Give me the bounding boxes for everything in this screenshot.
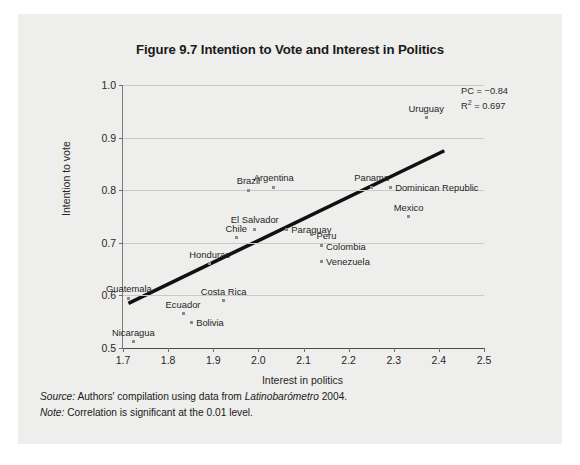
data-point: [247, 189, 250, 192]
data-point-label: Venezuela: [326, 256, 370, 267]
y-tick-mark: [119, 85, 123, 86]
y-axis-title: Intention to vote: [60, 141, 72, 216]
y-tick-label: 0.5: [101, 342, 116, 354]
figure-footer: Source: Authors' compilation using data …: [40, 389, 540, 421]
data-point: [310, 233, 313, 236]
x-tick-label: 2.4: [432, 354, 447, 366]
x-tick-label: 2.2: [341, 354, 356, 366]
x-tick-mark: [394, 348, 395, 352]
data-point: [208, 262, 211, 265]
data-point: [190, 321, 193, 324]
figure-card: Figure 9.7 Intention to Vote and Interes…: [18, 14, 562, 444]
data-point-label: Bolivia: [196, 317, 224, 328]
data-point-label: Honduras: [189, 249, 230, 260]
x-tick-label: 2.3: [386, 354, 401, 366]
data-point: [272, 186, 275, 189]
data-point-label: Colombia: [326, 240, 366, 251]
y-tick-mark: [119, 295, 123, 296]
data-point-label: Nicaragua: [112, 327, 155, 338]
data-point: [320, 260, 323, 263]
x-tick-mark: [213, 348, 214, 352]
scatter-plot: Intention to vote 0.50.60.70.80.91.01.71…: [18, 14, 562, 444]
gridline-y: [123, 85, 484, 86]
x-tick-label: 2.5: [477, 354, 492, 366]
x-tick-mark: [168, 348, 169, 352]
y-tick-label: 0.9: [101, 132, 116, 144]
pearson-correlation-label: PC = −0.84: [461, 85, 508, 98]
data-point-label: Peru: [317, 229, 337, 240]
gridline-y: [123, 243, 484, 244]
data-point: [235, 236, 238, 239]
data-point: [222, 299, 225, 302]
y-tick-label: 0.8: [101, 184, 116, 196]
y-tick-label: 1.0: [101, 79, 116, 91]
x-tick-mark: [439, 348, 440, 352]
x-tick-label: 1.9: [206, 354, 221, 366]
x-tick-label: 1.7: [116, 354, 131, 366]
data-point-label: Uruguay: [409, 103, 444, 114]
data-point: [425, 116, 428, 119]
gridline-y: [123, 138, 484, 139]
data-point: [253, 228, 256, 231]
data-point-label: Mexico: [394, 202, 424, 213]
data-point: [407, 215, 410, 218]
data-point-label: Dominican Republic: [395, 182, 478, 193]
x-tick-mark: [484, 348, 485, 352]
plot-area: 0.50.60.70.80.91.01.71.81.92.02.12.22.32…: [122, 85, 484, 349]
data-point-label: Chile: [226, 223, 247, 234]
data-point-label: Costa Rica: [201, 286, 247, 297]
x-axis-title: Interest in politics: [122, 374, 483, 386]
x-tick-label: 2.1: [296, 354, 311, 366]
data-point: [182, 312, 185, 315]
statistics-annotation: PC = −0.84 R2 = 0.697: [461, 85, 508, 114]
x-tick-label: 2.0: [251, 354, 266, 366]
data-point-label: Guatemala: [106, 283, 152, 294]
source-line: Source: Authors' compilation using data …: [40, 389, 540, 405]
data-point: [370, 186, 373, 189]
y-tick-label: 0.7: [101, 237, 116, 249]
data-point-label: Argentina: [254, 172, 294, 183]
x-tick-mark: [258, 348, 259, 352]
gridline-y: [123, 295, 484, 296]
x-tick-label: 1.8: [161, 354, 176, 366]
data-point: [127, 297, 130, 300]
note-line: Note: Correlation is significant at the …: [40, 405, 540, 421]
y-tick-mark: [119, 243, 123, 244]
y-tick-mark: [119, 138, 123, 139]
data-point-label: Panama: [354, 172, 389, 183]
x-tick-mark: [123, 348, 124, 352]
r-squared-label: R2 = 0.697: [461, 98, 508, 114]
data-point: [132, 340, 135, 343]
x-tick-mark: [304, 348, 305, 352]
y-tick-mark: [119, 190, 123, 191]
data-point-label: Ecuador: [166, 299, 201, 310]
x-tick-mark: [349, 348, 350, 352]
data-point: [320, 244, 323, 247]
data-point: [285, 228, 288, 231]
data-point: [389, 186, 392, 189]
